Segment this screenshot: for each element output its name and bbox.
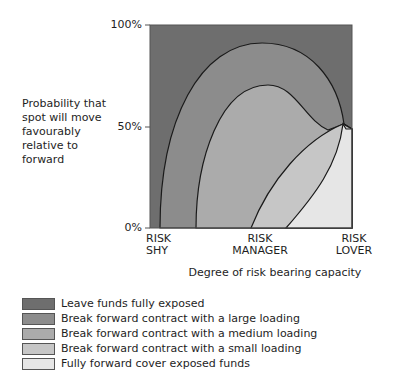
legend-swatch xyxy=(22,358,55,370)
legend-item: Break forward contract with a small load… xyxy=(22,341,317,356)
legend-item: Leave funds fully exposed xyxy=(22,296,317,311)
legend-label: Break forward contract with a medium loa… xyxy=(61,327,317,340)
x-tick-risk-manager: RISK MANAGER xyxy=(225,233,295,257)
legend-swatch xyxy=(22,298,55,310)
legend-item: Fully forward cover exposed funds xyxy=(22,356,317,371)
x-axis-title: Degree of risk bearing capacity xyxy=(150,266,400,279)
legend-swatch xyxy=(22,313,55,325)
legend-label: Break forward contract with a large load… xyxy=(61,312,300,325)
chart-plot-area xyxy=(0,0,405,260)
legend-label: Fully forward cover exposed funds xyxy=(61,357,250,370)
legend: Leave funds fully exposed Break forward … xyxy=(22,296,317,371)
legend-item: Break forward contract with a large load… xyxy=(22,311,317,326)
legend-label: Break forward contract with a small load… xyxy=(61,342,301,355)
x-tick-line: MANAGER xyxy=(225,245,295,257)
x-tick-line: LOVER xyxy=(326,245,382,257)
legend-swatch xyxy=(22,328,55,340)
x-tick-line: SHY xyxy=(146,245,176,257)
x-tick-risk-shy: RISK SHY xyxy=(146,233,176,257)
x-tick-risk-lover: RISK LOVER xyxy=(326,233,382,257)
legend-label: Leave funds fully exposed xyxy=(61,297,204,310)
legend-item: Break forward contract with a medium loa… xyxy=(22,326,317,341)
legend-swatch xyxy=(22,343,55,355)
